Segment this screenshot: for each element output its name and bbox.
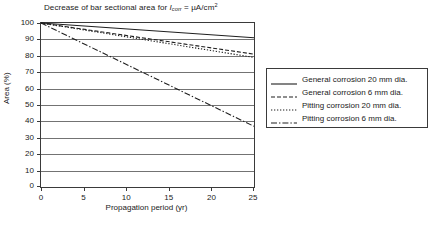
legend-item: General corrosion 20 mm dia. (271, 73, 427, 86)
chart-title-symbol-subscript: corr (172, 6, 182, 12)
legend-item-label: Pitting corrosion 6 mm dia. (302, 114, 397, 123)
x-axis-tick: 10 (126, 187, 127, 191)
x-axis-tick-label: 5 (81, 193, 85, 202)
y-axis-label: Area (%) (2, 72, 11, 104)
legend-item: Pitting corrosion 20 mm dia. (271, 99, 427, 112)
y-axis-tick-label: 100 (21, 18, 34, 27)
legend-item: Pitting corrosion 6 mm dia. (271, 112, 427, 125)
x-axis-tick: 25 (253, 187, 254, 191)
series-line (41, 23, 254, 38)
y-axis-tick-label: 0 (30, 181, 34, 190)
x-axis-tick: 5 (84, 187, 85, 191)
y-axis-tick-label: 20 (25, 149, 34, 158)
legend-item-label: Pitting corrosion 20 mm dia. (302, 101, 401, 110)
plot-area: 0102030405060708090100 0510152025 (40, 22, 255, 188)
x-axis-tick: 20 (211, 187, 212, 191)
y-axis-tick-label: 50 (25, 100, 34, 109)
y-axis-tick-label: 30 (25, 133, 34, 142)
chart-title: Decrease of bar sectional area for Icorr… (44, 2, 218, 12)
chart-legend: General corrosion 20 mm dia.General corr… (266, 68, 428, 128)
y-axis-tick-label: 40 (25, 116, 34, 125)
x-axis-tick-label: 20 (207, 193, 216, 202)
x-axis-tick-label: 25 (249, 193, 258, 202)
x-axis-tick-label: 15 (164, 193, 173, 202)
x-axis-tick: 15 (169, 187, 170, 191)
x-axis-tick-label: 10 (122, 193, 131, 202)
series-line (41, 23, 254, 126)
chart-figure: Decrease of bar sectional area for Icorr… (0, 0, 430, 226)
legend-line-sample (271, 101, 297, 111)
x-axis-tick-label: 0 (39, 193, 43, 202)
series-lines (41, 23, 254, 187)
legend-line-sample (271, 114, 297, 124)
x-axis-label: Propagation period (yr) (40, 203, 253, 212)
y-axis-tick-label: 10 (25, 166, 34, 175)
legend-item: General corrosion 6 mm dia. (271, 86, 427, 99)
y-axis-tick-label: 90 (25, 34, 34, 43)
legend-item-label: General corrosion 20 mm dia. (302, 75, 407, 84)
y-axis-tick-label: 80 (25, 51, 34, 60)
legend-item-label: General corrosion 6 mm dia. (302, 88, 403, 97)
legend-line-sample (271, 75, 297, 85)
chart-title-lead: Decrease of bar sectional area for (44, 3, 170, 12)
chart-title-units-exponent: 2 (214, 2, 217, 8)
x-axis-tick: 0 (41, 187, 42, 191)
y-axis-tick-label: 70 (25, 67, 34, 76)
legend-line-sample (271, 88, 297, 98)
y-axis-tick-label: 60 (25, 84, 34, 93)
chart-title-units: = µA/cm (182, 3, 215, 12)
